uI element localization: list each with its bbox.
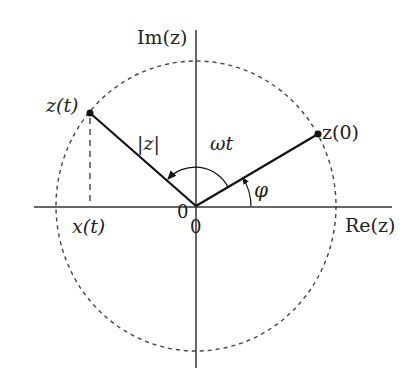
point-z-t-label: z(t) <box>45 94 78 116</box>
omega-t-arc <box>168 167 228 187</box>
point-z-0-label: z(0) <box>322 121 359 143</box>
phasor-diagram: Im(z) Re(z) z(t) z(0) |z| ωt φ x(t) 0 0 <box>0 0 412 386</box>
phi-arc <box>243 178 251 206</box>
imag-axis-label: Im(z) <box>137 26 187 48</box>
phasor-z-t <box>90 113 196 206</box>
point-z-0 <box>315 131 322 138</box>
origin-label-x: 0 <box>177 201 188 222</box>
omega-t-label: ωt <box>210 132 233 154</box>
real-axis-label: Re(z) <box>345 214 395 236</box>
magnitude-label: |z| <box>137 132 160 155</box>
point-z-t <box>87 110 94 117</box>
phi-label: φ <box>254 178 268 202</box>
origin-label-y: 0 <box>190 216 201 237</box>
projection-label: x(t) <box>72 215 105 237</box>
